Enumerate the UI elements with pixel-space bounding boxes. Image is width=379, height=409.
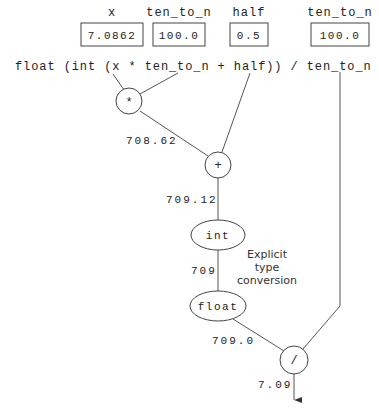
float-node: float — [190, 291, 246, 321]
multiply-node: * — [116, 88, 142, 114]
divide-operator: / — [290, 354, 297, 368]
var-label-half: half — [233, 6, 266, 20]
int-label: int — [206, 230, 230, 242]
value-box-half: 0.5 — [230, 23, 268, 46]
value-after-float: 709.0 — [212, 335, 255, 347]
edge-half-to-add — [222, 73, 250, 152]
annotation-line-1: Explicit — [247, 248, 288, 261]
divide-node: / — [280, 346, 308, 374]
value-box-ten-to-n: 100.0 — [153, 23, 205, 46]
var-label-ten-to-n-2: ten_to_n — [307, 6, 373, 20]
value-ten-to-n: 100.0 — [159, 30, 200, 42]
edge-ten-to-n-to-multiply — [140, 73, 178, 94]
var-label-x: x — [108, 6, 116, 20]
int-node: int — [191, 220, 245, 250]
value-after-int: 709 — [191, 265, 217, 277]
edge-multiply-to-add — [140, 111, 208, 156]
add-node: + — [205, 152, 231, 178]
value-half: 0.5 — [237, 30, 261, 42]
expression-text: float (int (x * ten_to_n + half)) / ten_… — [15, 60, 372, 74]
explicit-type-conversion-note: Explicit type conversion — [237, 248, 297, 287]
value-box-x: 7.0862 — [81, 23, 143, 46]
edge-x-to-multiply — [113, 74, 124, 90]
value-x: 7.0862 — [88, 30, 137, 42]
add-operator: + — [214, 159, 221, 173]
value-box-ten-to-n-2: 100.0 — [311, 23, 369, 46]
annotation-line-3: conversion — [237, 274, 297, 287]
expression-tree-diagram: x ten_to_n half ten_to_n 7.0862 100.0 0.… — [0, 0, 379, 409]
value-after-add: 709.12 — [166, 194, 218, 206]
var-label-ten-to-n: ten_to_n — [146, 6, 212, 20]
float-label: float — [198, 301, 239, 313]
value-result: 7.09 — [258, 379, 292, 391]
multiply-operator: * — [125, 96, 132, 110]
edge-ten-to-n-to-divide — [303, 72, 340, 349]
value-after-multiply: 708.62 — [126, 135, 178, 147]
annotation-line-2: type — [255, 261, 280, 274]
value-ten-to-n-2: 100.0 — [320, 30, 361, 42]
